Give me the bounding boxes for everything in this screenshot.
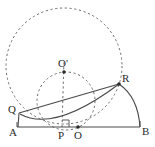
geometry-canvas: [0, 0, 155, 147]
arc-q-to-r: [20, 84, 119, 119]
segment-qr: [19, 84, 119, 113]
segment-qa: [18, 113, 19, 127]
point-label-oprime: O': [58, 58, 68, 69]
dot-oprime: [62, 70, 66, 74]
point-label-o: O: [74, 130, 82, 141]
geometry-figure: Q A B P O R O': [0, 0, 155, 147]
point-label-r: R: [122, 73, 129, 84]
small-dashed-circle: [37, 72, 95, 130]
dashed-vertical-p-to-oprime: [62, 60, 64, 127]
point-label-b: B: [142, 126, 149, 137]
point-label-a: A: [9, 127, 17, 138]
point-label-p: P: [58, 130, 64, 141]
arc-semicircle-r-to-b: [119, 84, 140, 127]
point-label-q: Q: [8, 104, 16, 115]
dot-r: [117, 82, 121, 86]
